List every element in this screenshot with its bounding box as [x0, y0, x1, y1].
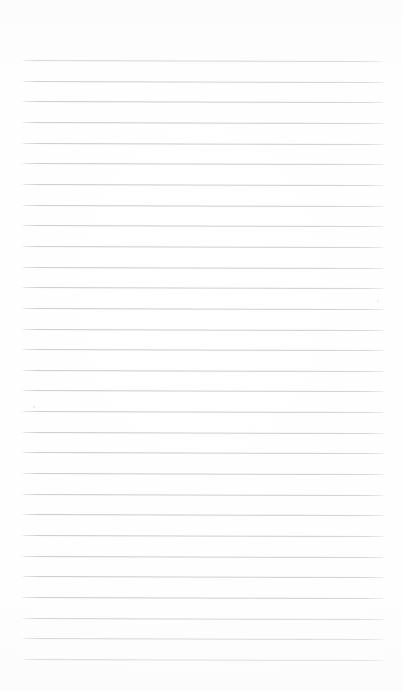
rule-line	[21, 329, 383, 331]
rule-line	[21, 618, 383, 620]
rule-line	[21, 81, 383, 83]
rule-line	[21, 101, 383, 103]
rule-line	[21, 163, 383, 165]
rule-line	[21, 122, 383, 124]
rule-line	[21, 246, 383, 248]
rule-line	[21, 494, 383, 496]
rule-line	[21, 638, 383, 640]
rule-line	[21, 452, 383, 454]
rule-line	[21, 514, 383, 516]
rule-line	[21, 411, 383, 413]
rule-line	[21, 432, 383, 434]
rule-line	[21, 659, 383, 661]
ruled-lines-group	[0, 0, 402, 691]
rule-line	[21, 184, 383, 186]
rule-line	[21, 556, 383, 558]
scanned-page	[0, 0, 402, 691]
rule-line	[21, 370, 383, 372]
rule-line	[21, 597, 383, 599]
rule-line	[21, 267, 383, 269]
rule-line	[21, 473, 383, 475]
rule-line	[21, 308, 383, 310]
rule-line	[21, 535, 383, 537]
rule-line	[21, 349, 383, 351]
rule-line	[21, 60, 383, 62]
rule-line	[21, 225, 383, 227]
rule-line	[21, 205, 383, 207]
rule-line	[21, 143, 383, 145]
rule-line	[21, 576, 383, 578]
rule-line	[21, 287, 383, 289]
rule-line	[21, 390, 383, 392]
